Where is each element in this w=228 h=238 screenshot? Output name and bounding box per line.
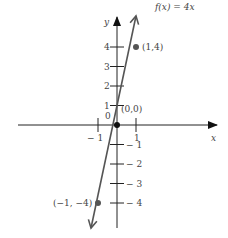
function-label: f(x) = 4x bbox=[154, 2, 195, 12]
graph-svg: x y 0 4321− 1− 2− 3− 4− 11 f(x) = 4x (1,… bbox=[0, 0, 228, 238]
data-point bbox=[114, 122, 120, 128]
x-tick-label: − 1 bbox=[87, 133, 103, 143]
point-label: (−1, −4) bbox=[53, 198, 92, 208]
y-axis-label: y bbox=[103, 17, 110, 27]
function-line bbox=[88, 16, 138, 228]
y-tick-label: − 2 bbox=[126, 159, 142, 169]
y-tick-label: 1 bbox=[104, 101, 110, 111]
data-point bbox=[133, 44, 139, 50]
y-tick-label: 3 bbox=[104, 62, 110, 72]
data-point bbox=[95, 200, 101, 206]
x-axis-label: x bbox=[211, 133, 216, 143]
point-label: (1,4) bbox=[142, 42, 163, 52]
y-tick-label: 2 bbox=[104, 81, 110, 91]
y-tick-label: − 3 bbox=[126, 179, 142, 189]
x-tick-label: 1 bbox=[134, 133, 140, 143]
y-tick-label: − 4 bbox=[126, 198, 142, 208]
y-tick-label: 4 bbox=[104, 42, 110, 52]
function-graph: x y 0 4321− 1− 2− 3− 4− 11 f(x) = 4x (1,… bbox=[0, 0, 228, 238]
point-label: (0,0) bbox=[121, 104, 142, 114]
origin-label: 0 bbox=[105, 111, 111, 121]
